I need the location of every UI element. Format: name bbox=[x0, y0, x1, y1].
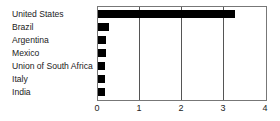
category-label: Italy bbox=[12, 74, 28, 84]
bar bbox=[98, 10, 235, 18]
x-tick-label: 0 bbox=[94, 103, 99, 113]
bar bbox=[98, 36, 106, 44]
category-label: Brazil bbox=[12, 22, 34, 32]
gridline bbox=[181, 7, 182, 100]
bar bbox=[98, 88, 105, 96]
x-tick-label: 1 bbox=[136, 103, 141, 113]
category-label: Union of South Africa bbox=[12, 61, 93, 71]
category-label: India bbox=[12, 87, 31, 97]
bar bbox=[98, 23, 109, 31]
x-tick-label: 4 bbox=[262, 103, 267, 113]
bar bbox=[98, 49, 106, 57]
gridline bbox=[139, 7, 140, 100]
category-label: United States bbox=[12, 9, 64, 19]
x-tick-label: 2 bbox=[178, 103, 183, 113]
gridline bbox=[223, 7, 224, 100]
category-label: Mexico bbox=[12, 48, 39, 58]
plot-area bbox=[97, 6, 267, 101]
bar-chart: United States Brazil Argentina Mexico Un… bbox=[0, 0, 280, 121]
bar bbox=[98, 75, 105, 83]
bar bbox=[98, 62, 105, 70]
category-label: Argentina bbox=[12, 35, 49, 45]
x-tick-label: 3 bbox=[220, 103, 225, 113]
